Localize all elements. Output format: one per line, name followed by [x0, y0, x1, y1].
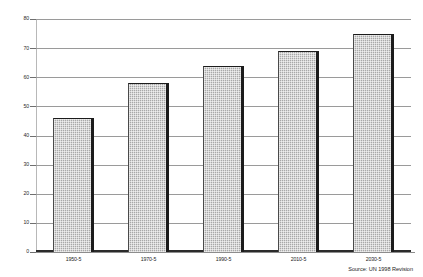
y-axis-tick-label: 20	[4, 191, 29, 196]
x-axis-tick-label: 2010-5	[269, 256, 329, 262]
y-axis-tick-label: 10	[4, 220, 29, 225]
y-axis-tick-label: 0	[4, 249, 29, 254]
x-axis-tick-label: 1970-5	[119, 256, 179, 262]
x-axis-tick-label: 2030-5	[344, 256, 404, 262]
y-axis-tick-label: 60	[4, 75, 29, 80]
bar-chart-figure: 01020304050607080 1950-51970-51990-52010…	[0, 0, 423, 277]
source-note: Source: UN 1998 Revision	[348, 266, 413, 273]
y-axis-tick-label: 30	[4, 162, 29, 167]
plot-area	[36, 19, 411, 252]
x-axis-tick-label: 1950-5	[44, 256, 104, 262]
bar	[353, 34, 394, 252]
gridline	[36, 19, 411, 20]
bar	[203, 66, 244, 252]
bar	[53, 118, 94, 252]
y-axis-tick-label: 50	[4, 104, 29, 109]
x-axis-line	[36, 252, 415, 253]
y-axis-tick-label: 70	[4, 46, 29, 51]
x-axis-tick-label: 1990-5	[194, 256, 254, 262]
y-axis-tick-label: 80	[4, 16, 29, 21]
y-axis-tick-label: 40	[4, 133, 29, 138]
bar	[128, 83, 169, 252]
bar	[278, 51, 319, 252]
